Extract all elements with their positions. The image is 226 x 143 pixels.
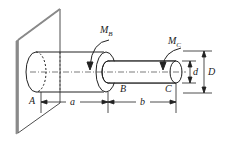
length-b-label: b [140, 97, 145, 107]
length-a-label: a [70, 97, 75, 107]
point-b-label: B [120, 84, 126, 94]
point-a-label: A [29, 96, 35, 106]
diameter-d-label: d [193, 67, 198, 77]
fixed-wall [16, 9, 60, 134]
moment-c-label: MC [168, 36, 181, 49]
moment-b-label: MB [100, 25, 113, 38]
shaft-diagram: MB MC A B C a b d D [0, 0, 226, 143]
diameter-D-label: D [208, 67, 215, 77]
point-c-label: C [165, 84, 172, 94]
